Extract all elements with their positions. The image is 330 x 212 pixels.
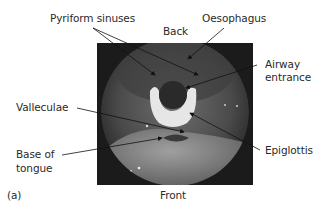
label-epiglottis: Epiglottis [265,144,313,157]
label-front: Front [160,189,186,202]
label-oesophagus: Oesophagus [202,12,266,25]
oesophagus-leader [188,28,224,59]
label-base-of-tongue-line1: Base of [16,148,54,161]
panel-label: (a) [7,189,21,202]
valleculae-leader [77,108,184,132]
tongue-leader [62,138,162,155]
airway-leader [186,65,257,88]
label-base-of-tongue-line2: tongue [16,162,52,175]
epiglottis-leader [190,113,260,150]
label-airway-line2: entrance [265,71,311,84]
label-back: Back [163,25,188,38]
label-pyriform-sinuses: Pyriform sinuses [50,12,135,25]
label-valleculae: Valleculae [16,101,68,114]
label-airway-line1: Airway [265,58,300,71]
